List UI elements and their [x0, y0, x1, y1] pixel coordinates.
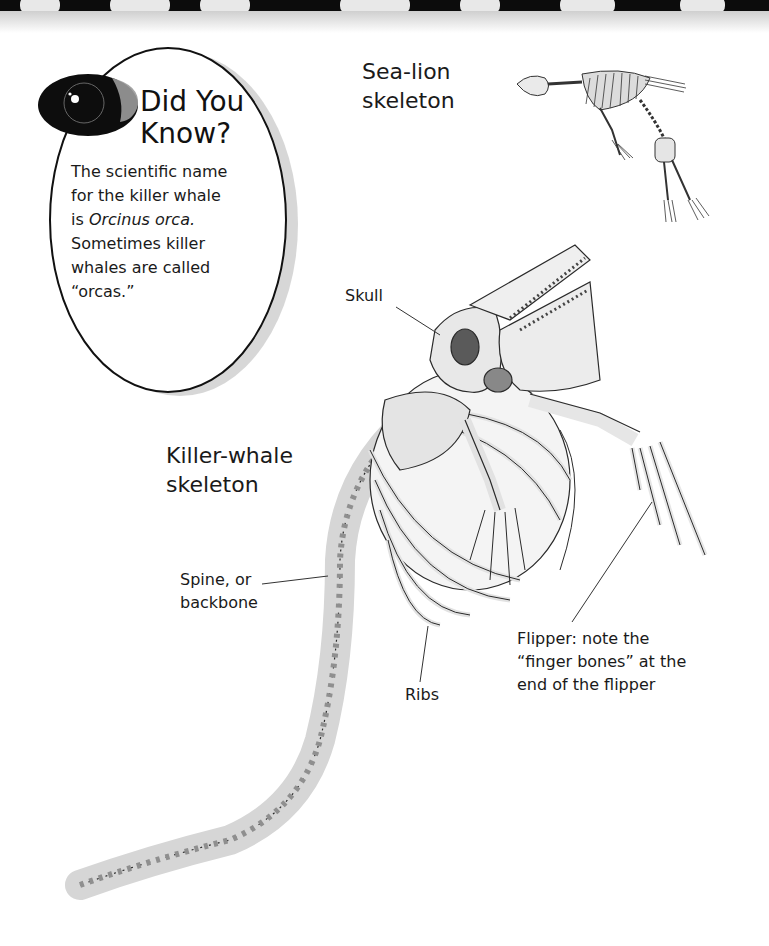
ribs-label: Ribs [405, 683, 439, 706]
skeleton-illustrations [0, 0, 769, 946]
did-you-know-title-line1: Did You [140, 86, 244, 118]
body-line: “orcas.” [71, 280, 271, 304]
body-line: The scientific name [71, 160, 271, 184]
body-line: is Orcinus orca. [71, 208, 271, 232]
sea-lion-caption: Sea-lion skeleton [362, 58, 455, 115]
body-line: whales are called [71, 256, 271, 280]
flipper-leader-line [572, 502, 652, 622]
body-line: Sometimes killer [71, 232, 271, 256]
scientific-name: Orcinus orca. [89, 210, 195, 229]
did-you-know-body: The scientific name for the killer whale… [71, 160, 271, 304]
skull-leader-line [396, 307, 440, 335]
killer-whale-caption: Killer-whale skeleton [166, 442, 293, 499]
did-you-know-title-line2: Know? [140, 118, 244, 150]
spine-label: Spine, or backbone [180, 568, 258, 614]
flipper-label: Flipper: note the “finger bones” at the … [517, 627, 686, 697]
ribs-leader-line [420, 626, 428, 682]
body-line-prefix: is [71, 210, 89, 229]
did-you-know-title: Did You Know? [140, 86, 244, 150]
body-line: for the killer whale [71, 184, 271, 208]
sea-lion-skeleton [517, 71, 709, 222]
eye-icon [38, 74, 138, 136]
skull-label: Skull [345, 284, 383, 307]
spine-leader-line [262, 576, 328, 584]
